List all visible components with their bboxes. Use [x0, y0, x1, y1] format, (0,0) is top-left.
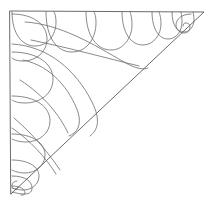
feather-triangle-drawing [0, 0, 214, 205]
figure-canvas [0, 0, 214, 205]
